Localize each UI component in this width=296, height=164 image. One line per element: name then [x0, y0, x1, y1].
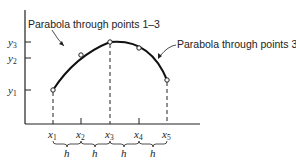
h-label-2: h	[92, 147, 98, 159]
h-label-3: h	[121, 147, 127, 159]
point-5	[165, 78, 169, 82]
y3-label: y3	[7, 36, 17, 50]
point-2	[79, 53, 83, 57]
y2-label: y2	[7, 52, 17, 66]
h-label-4: h	[150, 147, 156, 159]
y1-label: y1	[7, 84, 17, 98]
x3-label: x3	[104, 128, 114, 142]
right-annotation: Parabola through points 3–5	[177, 38, 296, 50]
parabola-diagram: Parabola through points 1–3 Parabola thr…	[0, 0, 296, 164]
point-4	[137, 46, 141, 50]
point-1	[51, 88, 55, 92]
left-annotation: Parabola through points 1–3	[28, 18, 160, 30]
x5-label: x5	[161, 128, 171, 142]
x1-label: x1	[47, 128, 57, 142]
h-label-1: h	[64, 147, 70, 159]
x2-label: x2	[75, 128, 85, 142]
x4-label: x4	[133, 128, 143, 142]
point-3	[108, 40, 112, 44]
right-annotation-arrow	[160, 45, 176, 56]
diagram-canvas: Parabola through points 1–3 Parabola thr…	[0, 0, 296, 164]
